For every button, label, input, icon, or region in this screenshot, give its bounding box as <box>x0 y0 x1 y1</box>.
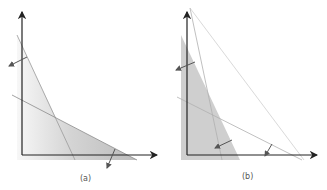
diagram-canvas <box>0 0 327 190</box>
caption-a: (a) <box>80 174 91 183</box>
panel-a <box>9 12 157 168</box>
caption-b: (b) <box>242 172 253 181</box>
feasible-region-b <box>181 35 240 160</box>
panel-b <box>176 8 317 160</box>
normal-arrow-shallow-b <box>265 144 272 156</box>
feasible-region-a <box>17 35 137 160</box>
